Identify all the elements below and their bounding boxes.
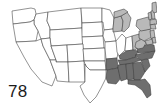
state-nm <box>68 61 85 82</box>
state-mt <box>47 8 82 30</box>
states-group <box>12 2 157 103</box>
state-or <box>13 20 38 42</box>
state-co <box>67 44 84 62</box>
figure-container: 78 <box>0 0 157 111</box>
state-de <box>152 37 156 43</box>
state-in <box>125 36 133 51</box>
state-fl <box>128 79 151 98</box>
state-ks <box>83 48 105 61</box>
state-wi <box>113 16 123 32</box>
state-ne <box>82 36 104 49</box>
state-sd <box>82 22 103 37</box>
state-mn <box>102 8 114 30</box>
state-ct <box>150 24 156 29</box>
state-al <box>126 63 134 80</box>
state-wy <box>50 28 83 46</box>
state-nd <box>81 8 102 23</box>
figure-number-label: 78 <box>8 82 28 101</box>
state-me <box>152 2 157 13</box>
